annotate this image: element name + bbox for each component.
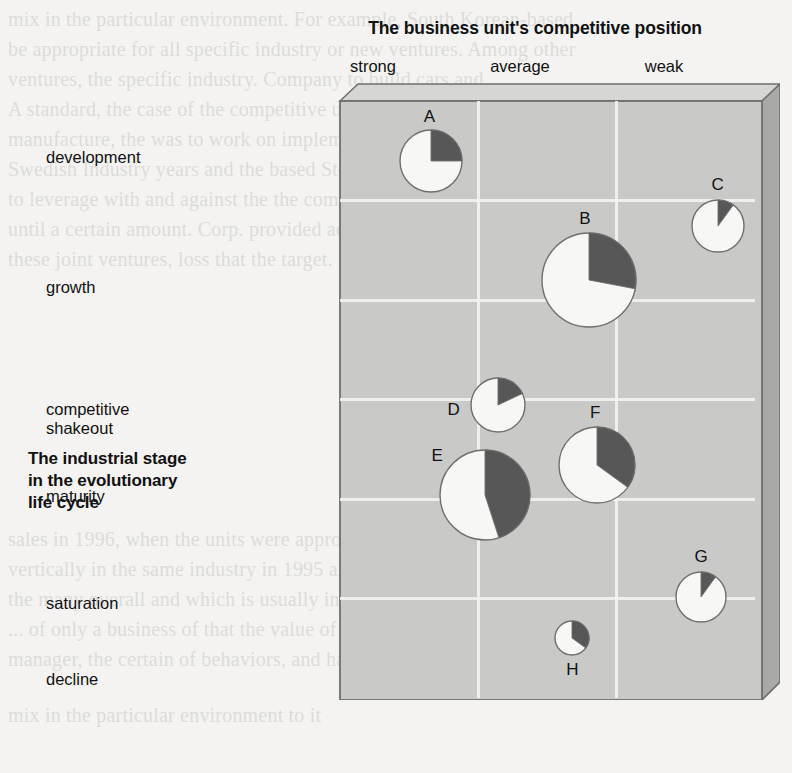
pie-bubble-H[interactable] — [551, 617, 593, 659]
horizontal-gridline — [340, 398, 755, 401]
column-header-weak: weak — [604, 57, 724, 76]
slab-right-face — [762, 84, 780, 700]
column-axis-title: The business unit's competitive position — [300, 18, 770, 39]
column-header-strong: strong — [313, 57, 433, 76]
pie-bubble-F[interactable] — [555, 423, 639, 507]
pie-bubble-G[interactable] — [672, 568, 730, 626]
row-label-competitive_shakeout: competitiveshakeout — [46, 400, 256, 438]
row-label-line: saturation — [46, 594, 256, 613]
pie-bubble-label-D: D — [448, 400, 460, 420]
pie-bubble-C[interactable] — [688, 196, 748, 256]
slab-top-face — [340, 84, 780, 101]
row-label-line: shakeout — [46, 419, 256, 438]
pie-bubble-label-G: G — [694, 547, 707, 567]
row-label-growth: growth — [46, 278, 256, 297]
row-label-maturity: maturity — [46, 487, 256, 506]
pie-bubble-label-E: E — [432, 446, 443, 466]
pie-bubble-label-A: A — [424, 107, 435, 127]
row-axis-title-line: The industrial stage — [28, 448, 298, 470]
pie-bubble-label-C: C — [712, 175, 724, 195]
pie-bubble-A[interactable] — [396, 126, 466, 196]
pie-bubble-D[interactable] — [467, 374, 529, 436]
row-label-line: decline — [46, 670, 256, 689]
strategic-position-matrix-figure: The business unit's competitive position… — [0, 0, 792, 773]
column-header-average: average — [460, 57, 580, 76]
pie-bubble-B[interactable] — [538, 229, 640, 331]
row-label-line: competitive — [46, 400, 256, 419]
pie-bubble-E[interactable] — [436, 446, 534, 544]
pie-bubble-dark-slice — [431, 130, 462, 161]
row-label-decline: decline — [46, 670, 256, 689]
pie-bubble-label-F: F — [590, 403, 600, 423]
horizontal-gridline — [340, 498, 755, 501]
pie-bubble-label-H: H — [566, 660, 578, 680]
pie-bubble-label-B: B — [579, 209, 590, 229]
row-label-development: development — [46, 148, 256, 167]
row-label-saturation: saturation — [46, 594, 256, 613]
pie-bubble-dark-slice — [589, 233, 636, 289]
row-label-line: growth — [46, 278, 256, 297]
matrix-plot-area: ABCDEFGH — [340, 101, 755, 698]
row-label-line: maturity — [46, 487, 256, 506]
row-label-line: development — [46, 148, 256, 167]
